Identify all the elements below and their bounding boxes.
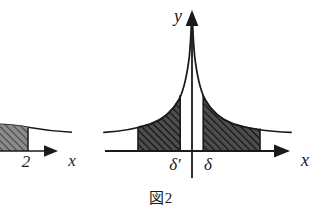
tick-label-delta: δ xyxy=(204,155,213,174)
left-fragment-shaded-region xyxy=(0,124,28,151)
figure-caption: 図2 xyxy=(0,186,322,207)
figure-2-diagram: 2 x xyxy=(0,0,322,216)
y-axis-arrowhead xyxy=(186,10,199,26)
tick-label-delta-prime: δ′ xyxy=(169,155,181,174)
left-fragment-tick-label-2: 2 xyxy=(22,152,31,171)
x-axis-arrowhead xyxy=(274,145,290,158)
y-axis-label: y xyxy=(172,6,182,26)
main-figure: y x δ′ δ xyxy=(100,6,309,178)
figure-caption-label: 図 xyxy=(149,189,165,207)
x-axis-label: x xyxy=(300,150,309,170)
shaded-region-left xyxy=(100,14,192,151)
left-fragment-x-axis-label: x xyxy=(67,151,76,170)
figure-caption-number: 2 xyxy=(165,190,174,206)
left-fragment-x-axis-arrowhead xyxy=(44,145,58,157)
figure-page: 2 x xyxy=(0,0,322,216)
left-figure-fragment: 2 x xyxy=(0,124,76,171)
